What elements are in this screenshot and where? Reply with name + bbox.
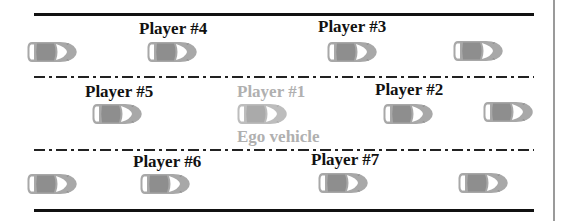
label-player-7: Player #7 xyxy=(311,151,379,168)
frame-edge-line xyxy=(553,0,555,221)
car-icon-player5 xyxy=(91,101,143,127)
bottom-solid-line xyxy=(34,209,534,212)
car-icon xyxy=(26,39,78,65)
car-icon-player7 xyxy=(317,170,369,196)
label-player-1: Player #1 xyxy=(237,83,305,100)
car-icon-player6 xyxy=(139,171,191,197)
car-icon-player3 xyxy=(326,39,378,65)
car-icon xyxy=(452,38,504,64)
car-icon-ego-vehicle xyxy=(236,101,288,127)
car-icon xyxy=(482,99,534,125)
car-icon-player4 xyxy=(146,39,198,65)
label-ego-vehicle: Ego vehicle xyxy=(237,128,320,145)
top-solid-line xyxy=(34,13,534,16)
label-player-5: Player #5 xyxy=(85,83,153,100)
car-icon xyxy=(457,170,509,196)
lane-divider-upper xyxy=(34,76,534,78)
car-icon xyxy=(26,171,78,197)
label-player-6: Player #6 xyxy=(133,153,201,170)
car-icon-player2 xyxy=(382,101,434,127)
label-player-4: Player #4 xyxy=(139,20,207,37)
label-player-3: Player #3 xyxy=(318,18,386,35)
lane-divider-lower xyxy=(34,149,534,151)
label-player-2: Player #2 xyxy=(375,81,443,98)
